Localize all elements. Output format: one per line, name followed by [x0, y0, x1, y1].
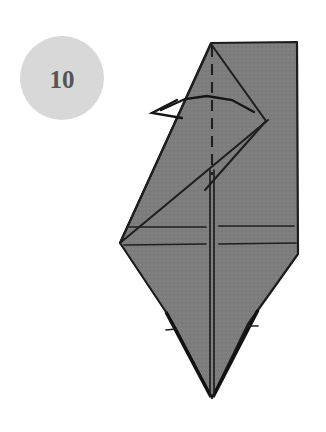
crease-horizontal-lower-left [124, 244, 206, 245]
crease-horizontal-lower-right [219, 243, 296, 244]
step-number-badge: 10 [20, 36, 104, 120]
step-badge-label: 10 [50, 66, 75, 93]
origami-diagram-page: 10 [0, 0, 326, 432]
origami-diagram-canvas: 10 [0, 0, 326, 432]
crease-left-lower-notch [166, 329, 176, 330]
